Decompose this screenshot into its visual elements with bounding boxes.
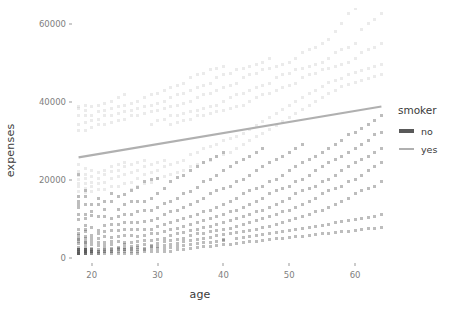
data-point xyxy=(196,242,199,245)
data-point xyxy=(117,246,120,249)
data-point xyxy=(169,86,172,89)
data-point xyxy=(150,232,153,235)
data-point xyxy=(308,200,311,203)
data-point xyxy=(189,234,192,237)
data-point xyxy=(110,185,113,188)
data-point xyxy=(334,174,337,177)
data-point xyxy=(103,235,106,238)
data-point xyxy=(189,100,192,103)
data-point xyxy=(235,180,238,183)
data-point xyxy=(130,213,133,216)
data-point xyxy=(354,42,357,45)
data-point xyxy=(268,225,271,228)
data-point xyxy=(215,215,218,218)
data-point xyxy=(110,247,113,250)
data-point xyxy=(229,72,232,75)
data-point xyxy=(248,139,251,142)
data-point xyxy=(354,8,357,10)
data-point xyxy=(117,215,120,218)
data-point xyxy=(150,123,153,126)
data-point xyxy=(255,240,258,243)
data-point xyxy=(380,12,383,15)
data-point xyxy=(308,226,311,229)
data-point xyxy=(136,185,139,188)
data-point xyxy=(248,128,251,131)
data-point xyxy=(156,102,159,105)
data-point xyxy=(268,92,271,95)
data-point xyxy=(156,217,159,220)
data-point xyxy=(229,96,232,99)
data-point xyxy=(176,176,179,179)
data-point xyxy=(97,232,100,235)
data-point xyxy=(163,240,166,243)
data-point xyxy=(340,85,343,88)
data-point xyxy=(176,93,179,96)
data-point xyxy=(117,235,120,238)
data-point xyxy=(77,105,80,108)
data-point xyxy=(340,22,343,25)
data-point xyxy=(248,73,251,76)
data-point xyxy=(314,89,317,92)
data-point xyxy=(176,121,179,124)
data-point xyxy=(255,96,258,99)
data-point xyxy=(176,114,179,117)
data-point xyxy=(294,68,297,71)
data-point xyxy=(222,109,225,112)
x-tick-label: 40 xyxy=(218,270,229,280)
data-point xyxy=(215,155,218,158)
data-point xyxy=(103,215,106,218)
data-point xyxy=(314,210,317,213)
data-point xyxy=(150,93,153,96)
data-point xyxy=(77,206,80,209)
data-point xyxy=(340,200,343,203)
data-point xyxy=(255,200,258,203)
data-point xyxy=(97,241,100,244)
data-point xyxy=(209,192,212,195)
data-point xyxy=(275,112,278,115)
data-point xyxy=(202,197,205,200)
data-point xyxy=(281,237,284,240)
data-point xyxy=(347,230,350,233)
data-point xyxy=(176,232,179,235)
data-point xyxy=(156,92,159,95)
data-point xyxy=(143,234,146,237)
data-point xyxy=(354,161,357,164)
data-point xyxy=(130,221,133,224)
data-point xyxy=(222,169,225,172)
data-point xyxy=(294,192,297,195)
data-point xyxy=(321,209,324,212)
data-point xyxy=(84,246,87,249)
data-point xyxy=(340,155,343,158)
x-tick-label: 50 xyxy=(284,270,295,280)
data-point xyxy=(196,114,199,117)
data-point xyxy=(156,250,159,253)
data-point xyxy=(110,177,113,180)
data-point xyxy=(334,51,337,54)
data-point xyxy=(268,232,271,235)
data-point xyxy=(367,216,370,219)
data-point xyxy=(110,100,113,103)
data-point xyxy=(143,239,146,242)
data-point xyxy=(301,227,304,230)
data-point xyxy=(143,173,146,176)
data-point xyxy=(163,230,166,233)
data-point xyxy=(90,181,93,184)
data-point xyxy=(294,206,297,209)
data-point xyxy=(196,200,199,203)
data-point xyxy=(248,89,251,92)
data-point xyxy=(301,96,304,99)
data-point xyxy=(275,231,278,234)
data-point xyxy=(327,223,330,226)
data-point xyxy=(189,153,192,156)
data-point xyxy=(143,105,146,108)
data-point xyxy=(308,65,311,68)
data-point xyxy=(255,228,258,231)
data-point xyxy=(202,180,205,183)
data-point xyxy=(327,232,330,235)
data-point xyxy=(136,240,139,243)
data-point xyxy=(84,114,87,117)
legend-key-swatch xyxy=(398,141,415,157)
data-point xyxy=(163,175,166,178)
legend-swatch xyxy=(399,148,414,151)
data-point xyxy=(123,234,126,237)
